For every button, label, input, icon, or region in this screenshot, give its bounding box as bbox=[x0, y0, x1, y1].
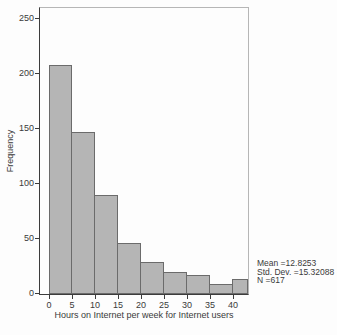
x-tick-label: 5 bbox=[62, 300, 82, 310]
x-tick-label: 0 bbox=[39, 300, 59, 310]
y-tick-label: 0 bbox=[0, 288, 34, 298]
y-tick-label: 150 bbox=[0, 123, 34, 133]
histogram-bar bbox=[163, 272, 187, 294]
histogram-bar bbox=[140, 262, 164, 294]
x-axis-tick bbox=[72, 295, 73, 299]
x-tick-label: 35 bbox=[200, 300, 220, 310]
x-axis-tick bbox=[141, 295, 142, 299]
histogram-bar bbox=[186, 275, 210, 294]
y-axis-tick bbox=[35, 18, 39, 19]
x-tick-label: 30 bbox=[177, 300, 197, 310]
x-axis-tick bbox=[95, 295, 96, 299]
x-axis-tick bbox=[210, 295, 211, 299]
x-axis-tick bbox=[233, 295, 234, 299]
histogram-bar bbox=[49, 65, 72, 294]
n-label: N =617 bbox=[257, 276, 337, 285]
y-axis-tick bbox=[35, 128, 39, 129]
y-axis-tick bbox=[35, 293, 39, 294]
histogram-bar bbox=[232, 279, 248, 294]
y-axis-tick bbox=[35, 73, 39, 74]
y-tick-label: 100 bbox=[0, 178, 34, 188]
y-tick-label: 50 bbox=[0, 233, 34, 243]
x-tick-label: 40 bbox=[223, 300, 243, 310]
x-axis-tick bbox=[164, 295, 165, 299]
y-tick-label: 200 bbox=[0, 68, 34, 78]
histogram-bar bbox=[117, 243, 141, 294]
histogram-bar bbox=[71, 132, 95, 294]
y-tick-label: 250 bbox=[0, 13, 34, 23]
histogram-bar bbox=[209, 284, 233, 294]
stats-annotation: Mean =12.8253 Std. Dev. =15.32088 N =617 bbox=[257, 259, 337, 285]
x-tick-label: 20 bbox=[131, 300, 151, 310]
x-tick-label: 25 bbox=[154, 300, 174, 310]
x-axis-tick bbox=[187, 295, 188, 299]
plot-area bbox=[39, 7, 249, 295]
histogram-figure: Frequency Hours on Internet per week for… bbox=[0, 0, 337, 335]
y-axis-tick bbox=[35, 238, 39, 239]
x-tick-label: 10 bbox=[85, 300, 105, 310]
y-axis-tick bbox=[35, 183, 39, 184]
x-axis-tick bbox=[49, 295, 50, 299]
histogram-bar bbox=[94, 195, 118, 294]
x-axis-tick bbox=[118, 295, 119, 299]
x-tick-label: 15 bbox=[108, 300, 128, 310]
x-axis-title: Hours on Internet per week for Internet … bbox=[40, 310, 248, 321]
